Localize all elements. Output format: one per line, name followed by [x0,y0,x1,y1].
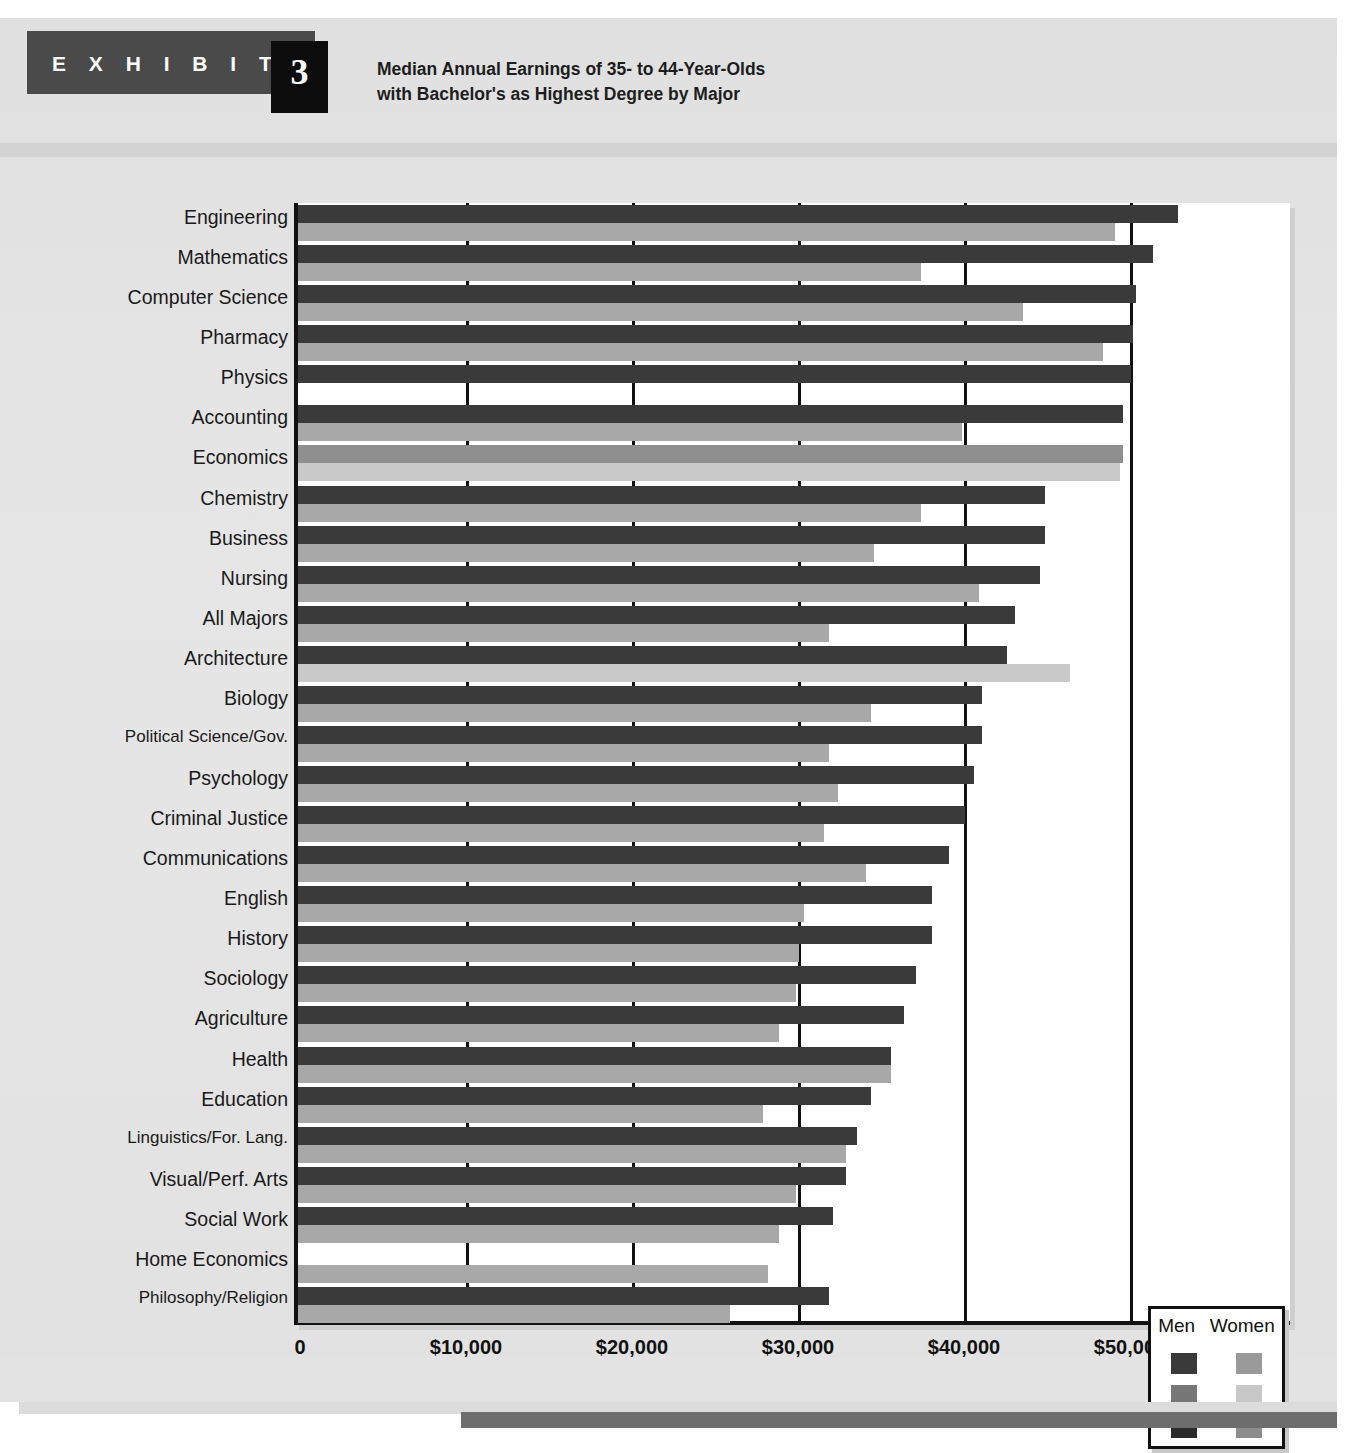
x-axis-label: $40,000 [928,1336,1000,1359]
bar-row [298,325,1290,363]
bar-row [298,1167,1290,1205]
y-axis-label: Architecture [184,647,288,670]
bar-men [298,205,1178,223]
bar-row [298,245,1290,283]
bar-women [298,504,921,522]
y-axis-label: English [224,887,288,910]
bar-men [298,606,1015,624]
bar-women [298,744,829,762]
bar-row [298,566,1290,604]
bar-row [298,686,1290,724]
y-axis-label: Criminal Justice [150,807,288,830]
bar-row [298,526,1290,564]
y-axis-label: Visual/Perf. Arts [150,1168,288,1191]
legend-swatch-men [1171,1353,1197,1374]
bar-row [298,405,1290,443]
bar-men [298,1047,891,1065]
y-axis-label: Economics [193,446,288,469]
bar-women [298,1185,796,1203]
y-axis-label: Home Economics [135,1248,288,1271]
bar-women [298,664,1070,682]
y-axis-label: Engineering [184,206,288,229]
y-axis-label: Accounting [192,406,288,429]
bar-women [298,704,871,722]
bar-row [298,445,1290,483]
bar-women [298,1024,779,1042]
bar-women [298,1305,730,1323]
bar-women [298,343,1103,361]
x-axis-label: $10,000 [430,1336,502,1359]
bar-men [298,526,1045,544]
bar-row [298,926,1290,964]
exhibit-label: E X H I B I T [52,52,280,76]
bar-men [298,686,982,704]
y-axis-label: Psychology [188,767,288,790]
bar-women [298,223,1115,241]
header-divider-band [0,143,1337,157]
y-axis-label: Social Work [184,1208,288,1231]
bar-men [298,1207,833,1225]
y-axis-label: Physics [221,366,288,389]
bar-row [298,966,1290,1004]
legend-women-header: Women [1210,1315,1275,1337]
bar-row [298,646,1290,684]
bar-row [298,886,1290,924]
bar-women [298,544,874,562]
legend-header: Men Women [1151,1315,1282,1337]
bar-row [298,1006,1290,1044]
bar-row [298,1047,1290,1085]
bar-women [298,423,962,441]
bar-women [298,303,1023,321]
bar-women [298,904,804,922]
bar-men [298,1006,904,1024]
bar-women [298,944,799,962]
y-axis-label: Education [201,1088,288,1111]
x-axis-label: 0 [294,1336,305,1359]
y-axis-label: Health [232,1048,288,1071]
y-axis-label: History [227,927,288,950]
bar-women [298,584,979,602]
bar-row [298,1207,1290,1245]
bar-men [298,1087,871,1105]
y-axis-label: Political Science/Gov. [125,727,288,747]
page-title-line-2: with Bachelor's as Highest Degree by Maj… [377,82,997,107]
bar-men [298,646,1007,664]
y-axis-label: Mathematics [177,246,288,269]
y-axis-label: Linguistics/For. Lang. [127,1128,288,1148]
y-axis-label: Biology [224,687,288,710]
bar-row [298,1127,1290,1165]
y-axis-label: Business [209,527,288,550]
bar-men [298,445,1123,463]
y-axis-label: Sociology [203,967,288,990]
bar-women [298,1145,846,1163]
bar-row [298,365,1290,403]
bar-men [298,926,932,944]
legend-swatch-rows [1151,1347,1282,1443]
bar-women [298,1065,891,1083]
bar-men [298,486,1045,504]
bar-women [298,1265,768,1283]
bar-men [298,285,1136,303]
legend-men-header: Men [1158,1315,1195,1337]
y-axis-label: Agriculture [195,1007,288,1030]
bar-row [298,766,1290,804]
bar-women [298,1105,763,1123]
y-axis-label: Philosophy/Religion [139,1288,288,1308]
bar-men [298,405,1123,423]
bar-women [298,824,824,842]
y-axis-label: Computer Science [128,286,288,309]
bar-women [298,624,829,642]
x-axis-label: $30,000 [762,1336,834,1359]
legend-swatch-women [1236,1353,1262,1374]
bar-women [298,263,921,281]
bar-men [298,806,965,824]
y-axis-label: Nursing [221,567,288,590]
bar-row [298,486,1290,524]
bar-women [298,463,1120,481]
bar-row [298,205,1290,243]
y-axis-label: All Majors [202,607,288,630]
bar-row [298,1247,1290,1285]
bar-men [298,1287,829,1305]
bar-row [298,606,1290,644]
